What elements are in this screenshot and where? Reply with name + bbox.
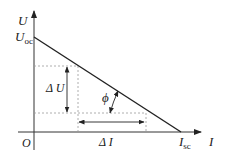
angle-arc (110, 91, 118, 113)
delta-i-label: Δ I (98, 135, 114, 149)
delta-u-label: Δ U (45, 81, 66, 95)
y-axis-label: U (18, 13, 29, 28)
uoc-label: Uoc (15, 29, 33, 46)
u-i-diagram: U I O Uoc Isc Δ U Δ I ϕ (0, 0, 230, 162)
phi-label: ϕ (102, 90, 109, 105)
origin-label: O (22, 136, 31, 150)
isc-label: Isc (178, 134, 191, 151)
x-axis-label: I (208, 134, 214, 149)
